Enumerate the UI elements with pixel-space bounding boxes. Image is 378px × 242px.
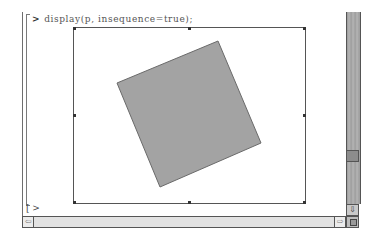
rotated-square-shape <box>117 41 261 187</box>
vertical-scrollbar[interactable] <box>346 12 361 204</box>
vertical-scroll-thumb[interactable] <box>346 150 359 162</box>
scroll-down-arrow-icon[interactable]: ⇩ <box>346 204 359 216</box>
plot-canvas <box>0 0 378 242</box>
next-prompt[interactable]: [ > <box>26 203 40 213</box>
horizontal-scrollbar[interactable] <box>22 216 346 228</box>
resize-icon <box>350 219 357 226</box>
scroll-left-arrow-icon[interactable]: ⇦ <box>22 216 34 228</box>
scroll-right-arrow-icon[interactable]: ⇨ <box>334 216 346 228</box>
window-resize-box[interactable] <box>346 216 359 228</box>
